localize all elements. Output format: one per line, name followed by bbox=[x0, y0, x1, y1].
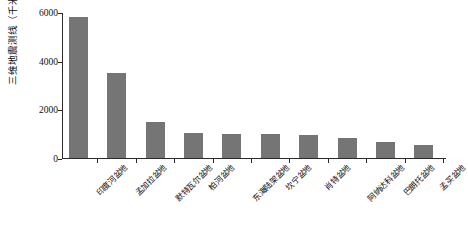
x-axis-category-label: 阿纳达科盆地 bbox=[366, 163, 407, 204]
x-axis-category-label: 肖特盆地 bbox=[323, 163, 353, 193]
x-axis-category-label: 印度河盆地 bbox=[95, 163, 130, 198]
x-axis-category-label: 巴朗托盆地 bbox=[402, 163, 437, 198]
x-axis-category-label: 孟加拉盆地 bbox=[133, 163, 168, 198]
x-axis-category-label: 孟买盆地 bbox=[438, 163, 468, 193]
